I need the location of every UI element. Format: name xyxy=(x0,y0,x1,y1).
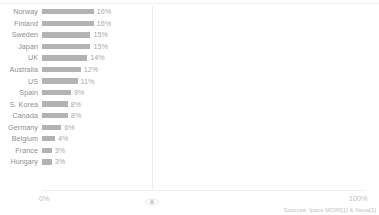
bar[interactable] xyxy=(42,159,52,164)
value-label: 8% xyxy=(71,100,81,109)
category-label: S. Korea xyxy=(0,100,38,109)
bar[interactable] xyxy=(42,67,81,72)
bar[interactable] xyxy=(42,136,55,141)
value-label: 15% xyxy=(93,30,107,39)
category-label: Belgium xyxy=(0,134,38,143)
bar-container: 16% xyxy=(42,18,379,30)
bar[interactable] xyxy=(42,101,68,106)
bar-row[interactable]: Sweden15% xyxy=(0,29,379,41)
value-label: 16% xyxy=(97,19,111,28)
value-label: 3% xyxy=(55,146,65,155)
bar[interactable] xyxy=(42,90,71,95)
bar-chart: Norway16%Finland16%Sweden15%Japan15%UK14… xyxy=(0,0,379,215)
bar-container: 15% xyxy=(42,41,379,53)
value-label: 6% xyxy=(64,123,74,132)
category-label: Norway xyxy=(0,7,38,16)
bar-row[interactable]: S. Korea8% xyxy=(0,98,379,110)
bar-container: 15% xyxy=(42,29,379,41)
bar-container: 3% xyxy=(42,156,379,168)
bar-container: 16% xyxy=(42,6,379,18)
category-label: Japan xyxy=(0,42,38,51)
bar-row[interactable]: Norway16% xyxy=(0,6,379,18)
value-label: 8% xyxy=(71,111,81,120)
category-label: US xyxy=(0,77,38,86)
bar-container: 9% xyxy=(42,87,379,99)
bar[interactable] xyxy=(42,9,94,14)
bar-row[interactable]: Finland16% xyxy=(0,18,379,30)
value-label: 11% xyxy=(81,77,95,86)
bar-rows: Norway16%Finland16%Sweden15%Japan15%UK14… xyxy=(0,6,379,168)
axis-tick-0: 0% xyxy=(39,194,49,203)
bar[interactable] xyxy=(42,113,68,118)
category-label: Spain xyxy=(0,88,38,97)
bar[interactable] xyxy=(42,148,52,153)
value-label: 4% xyxy=(58,134,68,143)
value-label: 3% xyxy=(55,157,65,166)
bar-row[interactable]: Australia12% xyxy=(0,64,379,76)
value-label: 15% xyxy=(93,42,107,51)
bar[interactable] xyxy=(42,32,90,37)
bar[interactable] xyxy=(42,125,61,130)
bar-row[interactable]: Belgium4% xyxy=(0,133,379,145)
bar-container: 11% xyxy=(42,75,379,87)
category-label: France xyxy=(0,146,38,155)
x-axis-line xyxy=(42,190,365,191)
bar-row[interactable]: US11% xyxy=(0,75,379,87)
bar-row[interactable]: Germany6% xyxy=(0,121,379,133)
bar-row[interactable]: France3% xyxy=(0,145,379,157)
eye-icon[interactable] xyxy=(144,193,160,203)
bar-container: 14% xyxy=(42,52,379,64)
bar-container: 6% xyxy=(42,121,379,133)
plot-area: Norway16%Finland16%Sweden15%Japan15%UK14… xyxy=(0,6,379,189)
bar-container: 8% xyxy=(42,98,379,110)
bar-row[interactable]: UK14% xyxy=(0,52,379,64)
category-label: Canada xyxy=(0,111,38,120)
bar-row[interactable]: Canada8% xyxy=(0,110,379,122)
axis-tick-100: 100% xyxy=(349,194,367,203)
category-label: Finland xyxy=(0,19,38,28)
bar-row[interactable]: Hungary3% xyxy=(0,156,379,168)
category-label: UK xyxy=(0,53,38,62)
bar[interactable] xyxy=(42,78,78,83)
value-label: 9% xyxy=(74,88,84,97)
bar-container: 12% xyxy=(42,64,379,76)
top-divider xyxy=(0,3,379,4)
bar-row[interactable]: Japan15% xyxy=(0,41,379,53)
bar-row[interactable]: Spain9% xyxy=(0,87,379,99)
value-label: 12% xyxy=(84,65,98,74)
category-label: Sweden xyxy=(0,30,38,39)
category-label: Hungary xyxy=(0,157,38,166)
bar-container: 8% xyxy=(42,110,379,122)
bar[interactable] xyxy=(42,44,90,49)
bar[interactable] xyxy=(42,21,94,26)
bar-container: 4% xyxy=(42,133,379,145)
bar-container: 3% xyxy=(42,145,379,157)
bar[interactable] xyxy=(42,55,87,60)
category-label: Germany xyxy=(0,123,38,132)
value-label: 14% xyxy=(90,53,104,62)
category-label: Australia xyxy=(0,65,38,74)
source-note: Sources: Ipsos MORI[1] & Nova[1] xyxy=(284,207,376,213)
value-label: 16% xyxy=(97,7,111,16)
